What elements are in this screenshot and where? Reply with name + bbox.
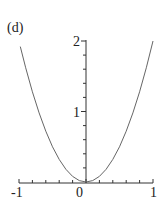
plot-area: -10112 <box>0 0 164 203</box>
x-tick-label: -1 <box>11 185 23 200</box>
y-tick-label: 2 <box>73 34 80 49</box>
series-curve <box>20 41 153 182</box>
tick-labels: -10112 <box>11 34 157 200</box>
y-tick-label: 1 <box>73 105 80 120</box>
x-tick-label: 1 <box>150 185 157 200</box>
x-tick-label: 0 <box>76 185 83 200</box>
